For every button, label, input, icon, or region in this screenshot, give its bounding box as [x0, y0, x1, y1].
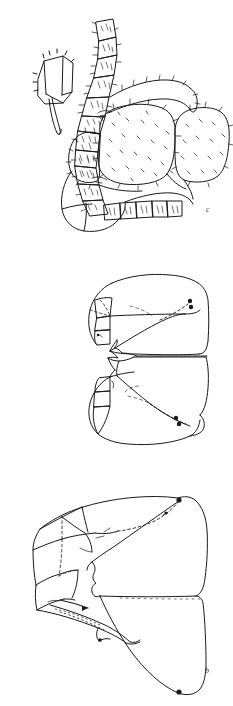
illustration-plate: c: [0, 0, 233, 706]
panel-c-drawing: [0, 0, 233, 240]
figure-label-c: c: [206, 206, 210, 214]
panel-b-drawing: [0, 240, 233, 460]
figure-panel-b: b: [0, 240, 233, 460]
figure-panel-a: a: [0, 460, 233, 706]
panel-a-drawing: [0, 460, 233, 706]
figure-panel-c: c: [0, 0, 233, 240]
